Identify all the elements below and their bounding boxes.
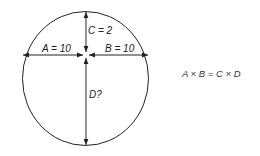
label-a: A = 10 [41, 43, 71, 54]
label-b: B = 10 [105, 43, 135, 54]
label-c: C = 2 [88, 25, 113, 36]
equation: A × B = C × D [182, 68, 241, 79]
label-d: D? [89, 89, 102, 100]
